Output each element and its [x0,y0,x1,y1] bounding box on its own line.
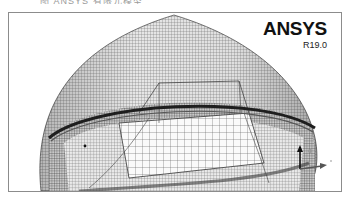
graphics-viewport[interactable]: ANSYS R19.0 [8,12,342,192]
release-version: R19.0 [263,40,327,50]
ansys-logo: ANSYS R19.0 [263,19,327,50]
figure-caption: 图 ANSYS 有限元模型 [40,0,143,4]
product-name: ANSYS [263,19,327,39]
coordinate-triad-icon [294,141,334,181]
